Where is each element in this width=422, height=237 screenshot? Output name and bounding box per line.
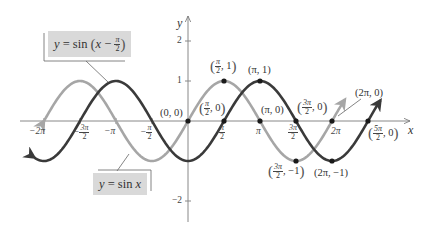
point-label-3pi2-m1: (3π2, −1) [268,163,304,180]
point-label-2pi-0: (2π, 0) [355,88,383,99]
frac-den: 2 [216,67,220,75]
point-label-pi2-0: (π2, 0) [199,100,226,117]
legend-sine: y = sin x [93,173,147,195]
x-tick-2pi: 2π [331,127,341,137]
frac-den: 2 [376,134,380,142]
point-label-pi2-1: (π2, 1) [210,58,237,75]
leader-2pi [338,99,361,116]
leader-shifted [86,61,108,82]
y-tick-2: 2 [177,36,182,46]
leader-base [117,154,129,171]
legend-eq-sin: = sin [60,37,91,52]
coord-y: , 0 [383,127,394,138]
legend-eq-sin: = sin [105,177,136,192]
frac-den: 2 [82,133,86,141]
legend-x-var: x [136,177,142,192]
point-label-5pi2-0: (5π2, 0) [368,125,399,142]
x-tick-3pi-2: 3π2 [288,124,298,141]
point-label-pi-0: (π, 0) [261,105,284,116]
x-tick-neg-pi: −π [104,127,115,137]
frac-den: 2 [291,133,295,141]
point-label-2pi-m1: (2π, −1) [314,168,348,179]
x-tick-pi-2: π2 [219,124,225,141]
x-tick-neg-pi-2: −π2 [140,124,152,141]
x-tick-neg-2pi: −2π [29,127,45,137]
legend-shifted-sine: y = sin ( x − π2 ) [48,31,131,57]
x-axis-label: x [408,124,413,136]
frac: 3π2 [302,99,312,116]
frac: π2 [219,124,225,141]
frac: 5π2 [373,125,383,142]
y-tick-neg2: −2 [172,196,182,206]
coord-y: , −1 [283,165,299,176]
paren-close: ) [120,36,125,53]
frac: 3π2 [79,124,89,141]
frac-den: 2 [276,172,280,180]
frac-den: 2 [305,108,309,116]
frac-den: 2 [205,109,209,117]
x-tick-pi: π [256,127,261,137]
coord-y: , 0 [312,101,323,112]
point-label-origin: (0, 0) [160,108,183,119]
legend-minus: − [101,37,114,52]
frac: 3π2 [273,163,283,180]
point-label-pi-1: (π, 1) [248,65,271,76]
y-tick-1: 1 [177,76,182,86]
coord-y: , 1 [221,60,232,71]
frac-den: 2 [147,133,151,141]
frac-den: 2 [220,133,224,141]
frac: 3π2 [288,124,298,141]
x-tick-neg-3pi-2: −3π2 [73,124,89,141]
point-label-3pi2-0: (3π2, 0) [297,99,328,116]
coord-y: , 0 [210,102,221,113]
y-axis-label: y [177,17,182,29]
frac: π2 [146,124,152,141]
frac-den: 2 [115,45,119,53]
